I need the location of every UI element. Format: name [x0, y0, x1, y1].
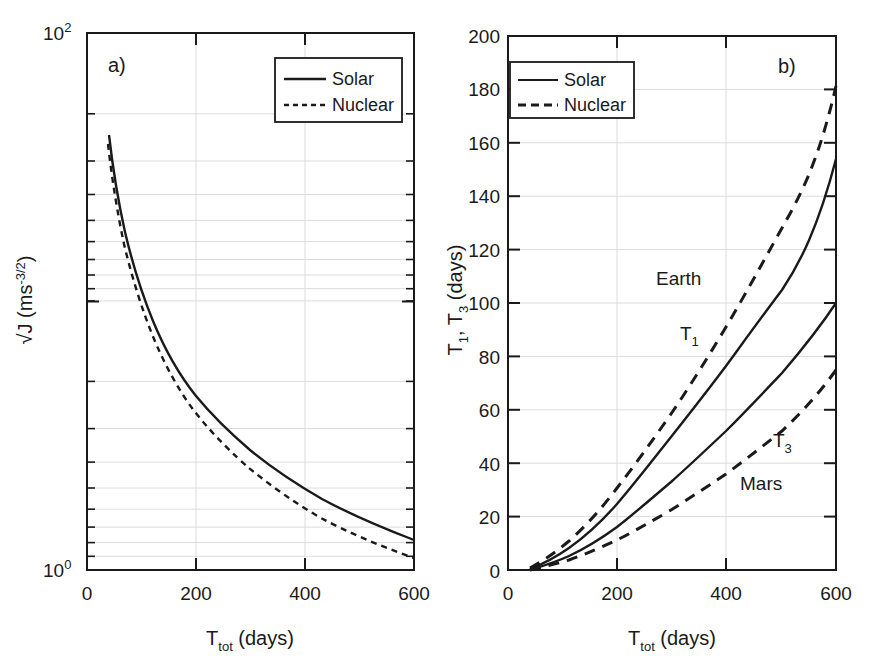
- panel-a-legend: Solar Nuclear: [275, 58, 402, 122]
- panel-a-yaxis-label-radical: √J: [14, 323, 36, 344]
- panel-b-svg: Solar Nuclear b) Earth T1 T3 Mars 200 18…: [440, 0, 873, 671]
- panel-a-xaxis-label-unit: (days): [233, 627, 294, 649]
- panel-a-ytick-bottom-exponent: 0: [64, 557, 71, 572]
- panel-b-xaxis-label-sub: tot: [640, 639, 655, 654]
- panel-b-legend-label-solar: Solar: [564, 70, 606, 90]
- panel-b: Solar Nuclear b) Earth T1 T3 Mars 200 18…: [440, 0, 873, 671]
- svg-text:102: 102: [43, 20, 71, 44]
- panel-b-yaxis-label-sub2: 3: [456, 306, 471, 313]
- panel-b-y-ticklabels: 200 180 160 140 120 100 80 60 40 20 0: [468, 26, 500, 582]
- panel-a-xtick-0: 0: [82, 583, 93, 604]
- panel-b-ytick-60: 60: [479, 400, 500, 421]
- panel-b-xaxis-label-main: T: [628, 627, 640, 649]
- panel-b-xtick-0: 0: [503, 583, 514, 604]
- panel-b-xaxis-label-unit: (days): [655, 627, 716, 649]
- panel-a-yaxis-label-unit-close: ): [14, 256, 36, 263]
- panel-a-xaxis-label-sub: tot: [218, 639, 233, 654]
- panel-b-annotation-t3-sub: 3: [785, 441, 792, 456]
- panel-b-xaxis-label: Ttot (days): [628, 627, 716, 654]
- panel-b-yaxis-label-sub1: 1: [456, 336, 471, 343]
- panel-b-annotation-t1: T1: [680, 323, 699, 349]
- panel-b-annotation-t3-main: T: [773, 430, 785, 451]
- panel-a-y-minor-ticks: [87, 114, 414, 557]
- panel-b-yaxis-label-mid: , T: [444, 313, 466, 336]
- panel-a-legend-label-solar: Solar: [332, 69, 374, 89]
- figure-container: Solar Nuclear a) 102 100 0 200 400 60: [0, 0, 873, 671]
- panel-b-x-ticklabels: 0 200 400 600: [503, 583, 852, 604]
- panel-a-curve-nuclear: [108, 144, 414, 558]
- panel-b-annotation-t1-main: T: [680, 323, 692, 344]
- panel-b-xtick-200: 200: [601, 583, 633, 604]
- panel-b-yaxis-label-main: T: [444, 343, 466, 355]
- panel-b-annotation-earth: Earth: [656, 268, 701, 289]
- panel-b-xtick-400: 400: [710, 583, 742, 604]
- panel-a-svg: Solar Nuclear a) 102 100 0 200 400 60: [0, 0, 440, 671]
- panel-a-y-ticklabels: 102 100: [43, 20, 71, 581]
- panel-b-annotation-t3: T3: [773, 430, 792, 456]
- panel-b-yaxis-label-unit: (days): [444, 245, 466, 306]
- panel-b-ytick-20: 20: [479, 507, 500, 528]
- panel-b-ytick-80: 80: [479, 347, 500, 368]
- panel-a-xtick-400: 400: [289, 583, 321, 604]
- panel-b-yaxis-label: T1, T3 (days): [444, 245, 471, 356]
- panel-a: Solar Nuclear a) 102 100 0 200 400 60: [0, 0, 440, 671]
- panel-b-legend-label-nuclear: Nuclear: [564, 95, 626, 115]
- panel-b-annotation-mars: Mars: [740, 473, 782, 494]
- panel-a-x-ticklabels: 0 200 400 600: [82, 583, 430, 604]
- panel-b-label: b): [778, 55, 796, 77]
- panel-a-xtick-200: 200: [180, 583, 212, 604]
- panel-b-ytick-180: 180: [468, 79, 500, 100]
- panel-b-ytick-160: 160: [468, 133, 500, 154]
- panel-a-xtick-600: 600: [398, 583, 430, 604]
- panel-a-label: a): [108, 54, 126, 76]
- panel-a-ytick-bottom-mantissa: 10: [43, 560, 64, 581]
- panel-a-ytick-top-exponent: 2: [64, 20, 71, 35]
- panel-a-yaxis-label-unit-sup: -3/2: [13, 262, 28, 284]
- panel-a-xaxis-label-main: T: [206, 627, 218, 649]
- panel-b-ytick-40: 40: [479, 454, 500, 475]
- panel-b-annotation-t1-sub: 1: [692, 334, 699, 349]
- panel-a-yaxis-label-unit-main: (ms: [14, 285, 36, 324]
- panel-b-ytick-0: 0: [489, 561, 500, 582]
- panel-b-legend: Solar Nuclear: [510, 62, 634, 118]
- panel-b-ytick-100: 100: [468, 293, 500, 314]
- panel-a-yaxis-label: √J (ms-3/2): [13, 256, 36, 345]
- panel-b-ytick-120: 120: [468, 240, 500, 261]
- panel-b-ytick-200: 200: [468, 26, 500, 47]
- panel-a-ytick-top-mantissa: 10: [43, 23, 64, 44]
- panel-b-ytick-140: 140: [468, 186, 500, 207]
- panel-a-xaxis-label: Ttot (days): [206, 627, 294, 654]
- panel-b-xtick-600: 600: [820, 583, 852, 604]
- svg-text:100: 100: [43, 557, 71, 581]
- panel-a-legend-label-nuclear: Nuclear: [332, 95, 394, 115]
